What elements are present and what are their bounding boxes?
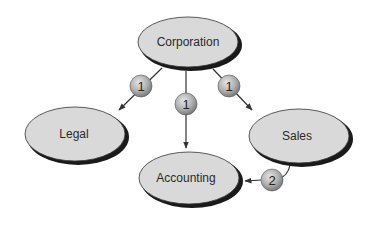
node-label: Sales: [282, 129, 312, 143]
node-sales[interactable]: Sales: [249, 109, 353, 167]
badge-number: 1: [182, 97, 189, 112]
badge-number: 1: [225, 79, 232, 94]
node-label: Corporation: [157, 35, 220, 49]
badge-corporation-legal: 1: [130, 75, 152, 97]
org-diagram: Corporation Legal Accounting Sales 1 1 1…: [0, 0, 369, 229]
badge-number: 2: [268, 173, 275, 188]
badge-number: 1: [137, 79, 144, 94]
node-corporation[interactable]: Corporation: [138, 17, 242, 71]
badge-corporation-sales: 1: [218, 75, 240, 97]
node-accounting[interactable]: Accounting: [139, 152, 243, 208]
node-legal[interactable]: Legal: [25, 107, 129, 165]
badge-sales-accounting: 2: [261, 169, 283, 191]
node-label: Accounting: [156, 171, 215, 185]
badge-corporation-accounting: 1: [175, 93, 197, 115]
node-label: Legal: [59, 127, 88, 141]
